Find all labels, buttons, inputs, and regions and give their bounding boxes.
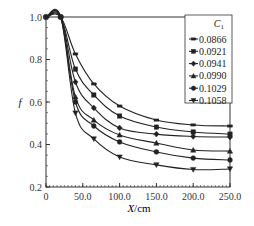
- circle-marker: [58, 14, 64, 20]
- y-tick-label: 0.2: [30, 182, 43, 193]
- legend: C10.08660.09210.09410.09900.10290.1058: [185, 15, 232, 106]
- legend-label: 0.1029: [199, 83, 227, 94]
- square-marker: [154, 125, 158, 129]
- x-tick-label: 200.0: [182, 191, 205, 202]
- x-tick-label: 50.0: [74, 191, 92, 202]
- legend-label: 0.1058: [199, 95, 227, 106]
- circle-marker: [191, 86, 195, 90]
- x-tick-label: 150.0: [145, 191, 168, 202]
- diamond-marker: [154, 131, 159, 137]
- circle-marker: [154, 150, 159, 155]
- legend-label: 0.0941: [199, 58, 227, 69]
- legend-title-subscript: 1: [221, 23, 225, 31]
- dash-marker: [73, 53, 78, 55]
- y-tick-label: 0.6: [30, 97, 43, 108]
- circle-marker: [117, 140, 122, 145]
- square-marker: [117, 114, 121, 118]
- x-tick-label: 100.0: [108, 191, 131, 202]
- circle-marker: [228, 158, 233, 163]
- line-chart: 0.20.40.60.81.0050.0100.0150.0200.0250.0…: [0, 0, 254, 226]
- x-axis-title: X/cm: [126, 202, 151, 214]
- dash-marker: [91, 83, 96, 85]
- legend-label: 0.0921: [199, 46, 227, 57]
- circle-marker: [91, 124, 96, 129]
- dash-marker: [228, 125, 233, 127]
- square-marker: [92, 93, 96, 97]
- dash-marker: [117, 105, 122, 107]
- legend-label: 0.0990: [199, 70, 227, 81]
- square-marker: [192, 49, 196, 53]
- triangle-down-marker: [73, 111, 78, 116]
- y-tick-label: 1.0: [30, 12, 43, 23]
- y-tick-label: 0.8: [30, 54, 43, 65]
- diamond-marker: [191, 134, 196, 140]
- diamond-marker: [117, 125, 122, 131]
- y-axis-title: f: [18, 96, 23, 108]
- y-tick-label: 0.4: [30, 139, 43, 150]
- circle-marker: [43, 14, 49, 20]
- legend-label: 0.0866: [199, 34, 227, 45]
- x-tick-label: 0: [44, 191, 49, 202]
- dash-marker: [191, 124, 196, 126]
- x-tick-label: 250.0: [219, 191, 242, 202]
- circle-marker: [191, 156, 196, 161]
- dash-marker: [191, 38, 195, 40]
- dash-marker: [154, 119, 159, 121]
- square-marker: [73, 67, 77, 71]
- x-axis-title-unit: /cm: [134, 202, 151, 214]
- diamond-marker: [73, 79, 78, 85]
